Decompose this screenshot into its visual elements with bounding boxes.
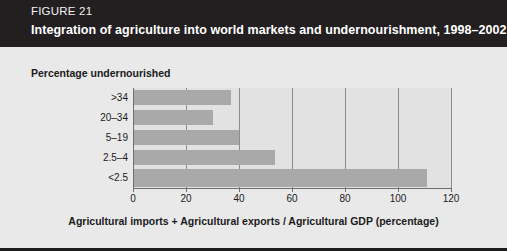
x-axis-tick-label: 40	[219, 193, 259, 204]
bar-row	[133, 108, 451, 128]
bar-row	[133, 88, 451, 108]
bar	[133, 169, 427, 187]
x-axis-title: Agricultural imports + Agricultural expo…	[0, 215, 507, 227]
bar	[133, 150, 275, 165]
x-axis-tick	[292, 188, 293, 192]
x-axis-tick	[398, 188, 399, 192]
bar-row	[133, 148, 451, 168]
y-axis-tick-label: 2.5–4	[70, 148, 128, 168]
y-axis-tick-labels: >3420–345–192.5–4<2.5	[70, 88, 128, 188]
x-axis-tick	[451, 188, 452, 192]
x-axis-tick	[345, 188, 346, 192]
bar-row	[133, 128, 451, 148]
x-axis-tick-label: 120	[431, 193, 471, 204]
x-axis-tick	[239, 188, 240, 192]
x-axis-tick-label: 80	[325, 193, 365, 204]
plot-area	[133, 88, 451, 188]
x-axis-tick-label: 20	[166, 193, 206, 204]
figure-panel: FIGURE 21 Integration of agriculture int…	[0, 0, 507, 251]
figure-body: Percentage undernourished >3420–345–192.…	[0, 47, 507, 248]
figure-title: Integration of agriculture into world ma…	[31, 22, 507, 39]
x-axis-tick-label: 0	[113, 193, 153, 204]
chart-plot-wrapper: >3420–345–192.5–4<2.5 020406080100120	[0, 88, 507, 213]
figure-number-label: FIGURE 21	[31, 4, 507, 19]
y-axis-tick-label: <2.5	[70, 168, 128, 188]
bar-row	[133, 168, 451, 188]
gridline	[451, 88, 452, 188]
y-axis-title: Percentage undernourished	[31, 67, 170, 79]
y-axis-line	[133, 88, 134, 188]
y-axis-tick-label: 20–34	[70, 108, 128, 128]
y-axis-tick-label: >34	[70, 88, 128, 108]
x-axis-tick-label: 60	[272, 193, 312, 204]
figure-header: FIGURE 21 Integration of agriculture int…	[0, 0, 507, 47]
x-axis-tick-label: 100	[378, 193, 418, 204]
bar	[133, 130, 239, 145]
x-axis-tick	[133, 188, 134, 192]
x-axis-tick	[186, 188, 187, 192]
y-axis-tick-label: 5–19	[70, 128, 128, 148]
bar	[133, 110, 213, 125]
bar	[133, 90, 231, 105]
